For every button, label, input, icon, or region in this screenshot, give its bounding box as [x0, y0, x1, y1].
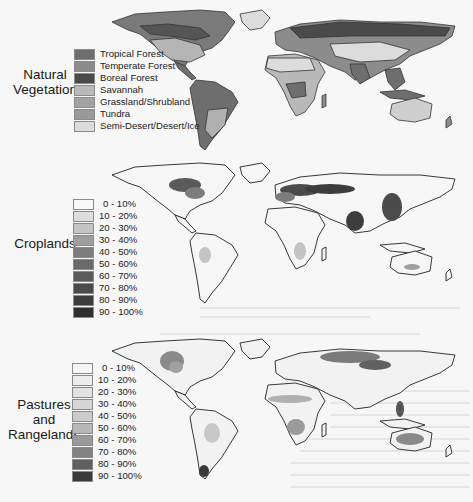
croplands-title: Croplands — [10, 236, 80, 251]
legend-swatch — [73, 223, 94, 234]
legend-label: 70 - 80% — [98, 446, 136, 458]
legend-swatch — [72, 435, 93, 446]
title-line: Pastures — [8, 397, 80, 412]
legend-swatch — [72, 387, 93, 398]
legend-label: 90 - 100% — [98, 470, 142, 482]
legend-swatch — [74, 61, 95, 72]
legend-swatch — [73, 235, 94, 246]
legend-swatch — [74, 121, 95, 132]
legend-swatch — [73, 259, 94, 270]
legend-swatch — [72, 471, 93, 482]
legend-swatch — [74, 85, 95, 96]
legend-label: 10 - 20% — [99, 210, 137, 222]
legend-swatch — [73, 307, 94, 318]
legend-label: 0 - 10% — [102, 362, 135, 374]
legend-swatch — [72, 363, 93, 374]
legend-label: Temperate Forest — [100, 60, 175, 72]
legend-label: 60 - 70% — [98, 434, 136, 446]
legend-label: 20 - 30% — [98, 386, 136, 398]
legend-swatch — [73, 199, 94, 210]
legend-label: 90 - 100% — [99, 306, 143, 318]
legend-label: Semi-Desert/Desert/Ice — [100, 120, 200, 132]
legend-swatch — [72, 447, 93, 458]
legend-label: 0 - 10% — [103, 198, 136, 210]
legend-swatch — [74, 73, 95, 84]
title-line: Natural — [10, 67, 80, 82]
legend-swatch — [73, 211, 94, 222]
legend-label: Grassland/Shrubland — [100, 96, 190, 108]
title-line: Croplands — [10, 236, 80, 251]
title-line: and — [8, 412, 80, 427]
legend-swatch — [72, 459, 93, 470]
legend-swatch — [73, 247, 94, 258]
legend-swatch — [74, 109, 95, 120]
legend-label: 60 - 70% — [99, 270, 137, 282]
legend-swatch — [72, 375, 93, 386]
natural-vegetation-panel: Natural Vegetation Tropical Forest Tempe… — [0, 0, 473, 165]
legend-swatch — [73, 295, 94, 306]
croplands-panel: Croplands 0 - 10% 10 - 20% 20 - 30% 30 -… — [0, 155, 473, 325]
legend-label: 80 - 90% — [99, 294, 137, 306]
legend-swatch — [73, 283, 94, 294]
legend-swatch — [73, 271, 94, 282]
legend-label: 80 - 90% — [98, 458, 136, 470]
legend-swatch — [72, 399, 93, 410]
natural-vegetation-title: Natural Vegetation — [10, 67, 80, 97]
legend-swatch — [74, 49, 95, 60]
legend-swatch — [72, 411, 93, 422]
legend-label: 40 - 50% — [99, 246, 137, 258]
legend-label: 50 - 60% — [99, 258, 137, 270]
legend-swatch — [72, 423, 93, 434]
legend-label: 30 - 40% — [98, 398, 136, 410]
legend-swatch — [74, 97, 95, 108]
legend-label: Tropical Forest — [100, 48, 164, 60]
pastures-rangelands-panel: Pastures and Rangelands 0 - 10% 10 - 20%… — [0, 335, 473, 502]
legend-label: 20 - 30% — [99, 222, 137, 234]
legend-label: Boreal Forest — [100, 72, 158, 84]
legend-label: 10 - 20% — [98, 374, 136, 386]
legend-label: 40 - 50% — [98, 410, 136, 422]
legend-label: Savannah — [100, 84, 143, 96]
pastures-rangelands-title: Pastures and Rangelands — [8, 397, 80, 442]
legend-label: Tundra — [100, 108, 130, 120]
title-line: Rangelands — [8, 427, 80, 442]
title-line: Vegetation — [10, 82, 80, 97]
legend-label: 70 - 80% — [99, 282, 137, 294]
legend-label: 50 - 60% — [98, 422, 136, 434]
legend-label: 30 - 40% — [99, 234, 137, 246]
